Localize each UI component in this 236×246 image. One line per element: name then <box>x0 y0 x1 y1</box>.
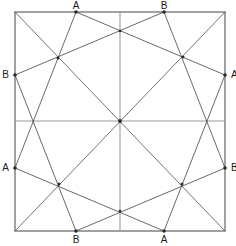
point-b-right <box>223 166 227 170</box>
node-top-mid <box>119 30 122 33</box>
label-b-bottom: B <box>73 234 80 245</box>
label-b-left: B <box>2 69 9 80</box>
node-lower-left <box>58 183 61 186</box>
node-center <box>118 119 122 123</box>
label-a-right: A <box>231 69 236 80</box>
label-a-bottom: A <box>161 234 168 245</box>
label-b-right: B <box>231 162 236 173</box>
label-a-top: A <box>73 0 80 11</box>
node-upper-right <box>182 56 185 59</box>
point-a-right <box>223 73 227 77</box>
point-b-left <box>13 73 17 77</box>
node-upper-left <box>57 57 60 60</box>
point-a-bottom <box>162 229 166 233</box>
figure-canvas: A B A B A B A B <box>0 0 236 246</box>
node-bottom-mid <box>119 210 122 213</box>
node-lower-right <box>181 183 184 186</box>
label-b-top: B <box>161 0 168 11</box>
geometry-figure: A B A B A B A B <box>0 0 236 246</box>
point-a-left <box>13 166 17 170</box>
label-a-left: A <box>2 162 9 173</box>
point-b-bottom <box>74 229 78 233</box>
